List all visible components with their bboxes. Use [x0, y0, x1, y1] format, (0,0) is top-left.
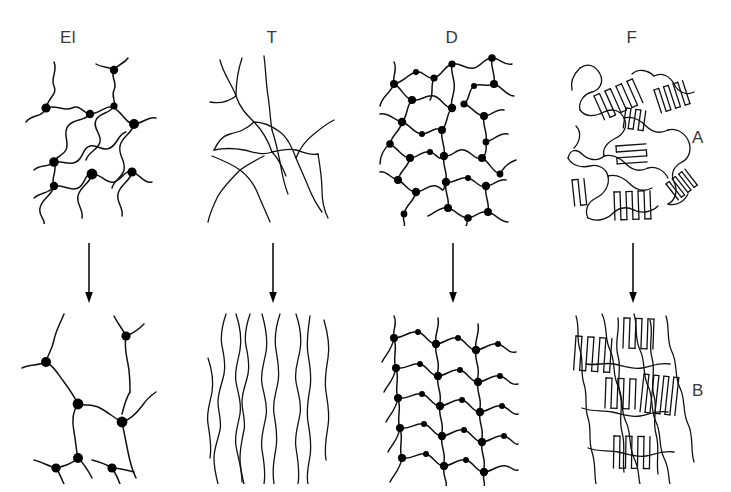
panel-t-a [196, 52, 346, 224]
column-label-t: T [252, 28, 292, 48]
panel-d-a [378, 50, 520, 226]
panel-f-a [562, 52, 704, 224]
panel-el-b [14, 312, 164, 484]
transition-arrow-t [266, 243, 280, 309]
panel-t-b [196, 312, 346, 484]
panel-d-b [378, 310, 520, 486]
transition-arrow-d [446, 243, 460, 309]
panel-f-b [562, 312, 704, 484]
column-label-el: El [48, 28, 88, 48]
transition-arrow-f [626, 243, 640, 309]
column-label-f: F [612, 28, 652, 48]
polymer-network-figure: El T D F A B [0, 0, 731, 492]
transition-arrow-el [82, 243, 96, 309]
panel-el-a [14, 52, 164, 224]
column-label-d: D [432, 28, 472, 48]
